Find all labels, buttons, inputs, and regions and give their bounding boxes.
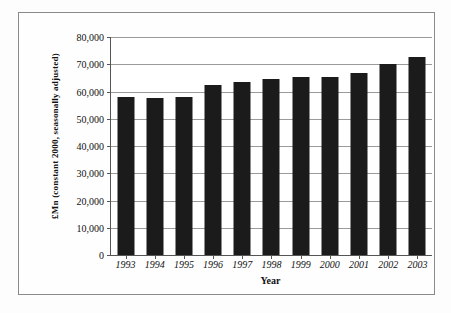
- bar-group: 1994: [140, 37, 169, 255]
- x-tick-label: 1994: [145, 259, 165, 270]
- bar-group: 1995: [169, 37, 198, 255]
- x-tick-label: 2003: [407, 259, 427, 270]
- y-tick-label: 30,000: [77, 168, 105, 179]
- bar: [175, 97, 192, 255]
- y-tick-label: 80,000: [77, 32, 105, 43]
- x-tick-label: 1998: [261, 259, 281, 270]
- y-tick-label: 60,000: [77, 86, 105, 97]
- bar-group: 1998: [257, 37, 286, 255]
- bar-group: 2000: [315, 37, 344, 255]
- x-tick-label: 1999: [291, 259, 311, 270]
- bar-group: 1993: [111, 37, 140, 255]
- bar-group: 1997: [228, 37, 257, 255]
- x-axis-title: Year: [110, 275, 431, 286]
- x-tick-label: 1993: [116, 259, 136, 270]
- bar-group: 1999: [286, 37, 315, 255]
- chart-figure: £Mn (constant 2000, seasonally adjusted)…: [0, 0, 451, 313]
- bar-series: 1993199419951996199719981999200020012002…: [111, 37, 432, 255]
- bar: [380, 64, 397, 255]
- x-tick-label: 2001: [349, 259, 369, 270]
- bar-group: 2002: [374, 37, 403, 255]
- bar: [205, 85, 222, 255]
- y-tick-label: 10,000: [77, 222, 105, 233]
- plot-area: 010,00020,00030,00040,00050,00060,00070,…: [110, 37, 432, 256]
- x-tick-label: 1997: [232, 259, 252, 270]
- bar-group: 1996: [199, 37, 228, 255]
- y-tick-label: 50,000: [77, 113, 105, 124]
- bar: [292, 77, 309, 255]
- bar: [409, 57, 426, 255]
- y-tick-label: 40,000: [77, 141, 105, 152]
- x-tick-label: 2002: [378, 259, 398, 270]
- bar: [234, 82, 251, 255]
- y-tick-mark: [107, 255, 111, 256]
- y-tick-label: 0: [99, 250, 104, 261]
- y-tick-label: 20,000: [77, 195, 105, 206]
- x-tick-label: 1996: [203, 259, 223, 270]
- bar: [351, 73, 368, 255]
- x-tick-label: 2000: [320, 259, 340, 270]
- figure-border: £Mn (constant 2000, seasonally adjusted)…: [18, 12, 435, 295]
- bar: [321, 77, 338, 255]
- bar: [146, 98, 163, 255]
- x-tick-label: 1995: [174, 259, 194, 270]
- bar-group: 2003: [403, 37, 432, 255]
- y-tick-label: 70,000: [77, 59, 105, 70]
- bar: [117, 97, 134, 255]
- bar-group: 2001: [344, 37, 373, 255]
- bar: [263, 79, 280, 255]
- y-axis-title: £Mn (constant 2000, seasonally adjusted): [50, 26, 60, 246]
